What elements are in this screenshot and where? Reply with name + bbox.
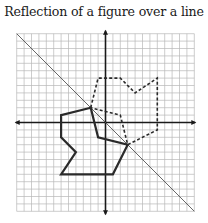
original-figure — [61, 108, 128, 175]
reflected-figure — [91, 78, 158, 145]
coordinate-plane — [0, 0, 208, 223]
